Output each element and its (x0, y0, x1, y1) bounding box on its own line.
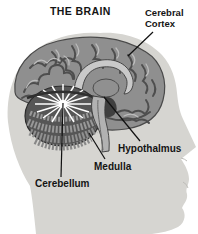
label-medulla: Medulla (94, 161, 131, 172)
label-cerebellum: Cerebellum (35, 178, 89, 189)
label-hypothalmus: Hypothalmus (118, 143, 181, 154)
thalamus (93, 79, 119, 97)
diagram-title: THE BRAIN (50, 5, 111, 17)
brain-diagram: THE BRAIN Cerebral Cortex Hypothalmus Me… (0, 0, 198, 234)
brain-illustration (0, 0, 198, 234)
label-cerebral-cortex: Cerebral Cortex (145, 8, 198, 29)
